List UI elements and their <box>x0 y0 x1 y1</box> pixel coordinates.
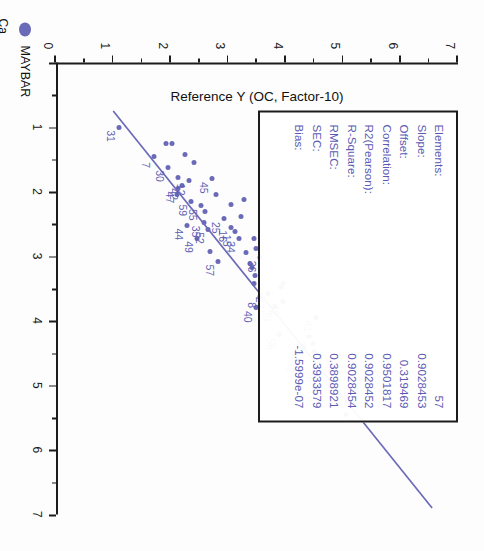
y-tick <box>112 55 114 62</box>
x-tick <box>52 159 56 161</box>
y-tick-label: 5 <box>328 42 342 49</box>
statistic-key: Correlation: <box>377 124 394 185</box>
legend-marker-icon <box>19 22 31 36</box>
data-point <box>213 192 218 197</box>
statistic-value: -1.5999e-07 <box>290 345 307 408</box>
statistic-key: R2(Pearson): <box>360 124 377 194</box>
data-point <box>202 220 207 225</box>
y-tick-label: 7 <box>443 42 457 49</box>
data-point <box>194 235 199 240</box>
statistic-row: Offset:0.319469 <box>395 124 412 408</box>
data-point-label: 8 <box>246 302 258 308</box>
statistic-row: Slope:0.9028453 <box>412 124 429 408</box>
data-point <box>183 151 188 156</box>
data-point <box>248 261 253 266</box>
data-point-label: 16 <box>217 230 229 242</box>
data-point <box>250 265 255 270</box>
data-point-label: 40 <box>242 311 254 323</box>
statistic-key: Slope: <box>412 124 429 157</box>
data-point <box>184 222 189 227</box>
x-tick <box>49 385 56 387</box>
statistic-value: 0.9028453 <box>412 353 429 408</box>
data-point <box>151 153 156 158</box>
statistic-key: R-Square: <box>342 124 359 177</box>
data-point <box>198 203 203 208</box>
data-point <box>221 216 226 221</box>
data-point-label: 55 <box>187 209 199 221</box>
y-tick <box>399 55 401 62</box>
statistic-row: R-Square:0.9028454 <box>342 124 359 408</box>
y-axis-title: Reference Y (OC, Factor-10) <box>171 89 344 104</box>
data-point-label: 45 <box>198 181 210 193</box>
y-tick-label: 1 <box>98 42 112 49</box>
legend: MAYBAR <box>18 22 32 97</box>
data-point-label: 36 <box>246 260 258 272</box>
statistic-key: SEC: <box>307 124 324 151</box>
data-point-label: 31 <box>105 130 117 142</box>
x-tick <box>49 514 56 516</box>
data-point-label: 49 <box>183 241 195 253</box>
data-point-label: 7 <box>140 162 152 168</box>
y-tick <box>313 58 315 62</box>
statistics-box: Elements:57Slope:0.9028453Offset:0.31946… <box>258 110 458 422</box>
x-tick <box>52 223 56 225</box>
data-point <box>242 196 247 201</box>
data-point <box>210 176 215 181</box>
x-tick <box>52 94 56 96</box>
x-tick-label: 4 <box>30 317 44 324</box>
data-point <box>188 198 193 203</box>
statistic-key: Elements: <box>430 124 447 176</box>
x-tick <box>49 191 56 193</box>
data-point-label: 12 <box>175 183 187 195</box>
y-tick <box>141 58 143 62</box>
x-tick <box>49 256 56 258</box>
y-tick <box>370 58 372 62</box>
data-point <box>175 185 180 190</box>
data-point <box>252 235 257 240</box>
data-point <box>251 280 256 285</box>
y-tick <box>255 58 257 62</box>
data-point <box>174 192 179 197</box>
data-point <box>207 248 212 253</box>
y-tick <box>342 55 344 62</box>
data-point <box>203 208 208 213</box>
data-point-label: 59 <box>177 204 189 216</box>
y-tick <box>83 58 85 62</box>
statistic-row: Bias:-1.5999e-07 <box>290 124 307 408</box>
statistic-row: Correlation:0.9501817 <box>377 124 394 408</box>
x-tick <box>52 482 56 484</box>
data-point-label: 47 <box>164 191 176 203</box>
statistic-key: RMSEC: <box>325 124 342 169</box>
x-tick-label: 7 <box>30 511 44 518</box>
data-point <box>243 250 248 255</box>
y-tick <box>456 55 458 62</box>
x-tick <box>49 127 56 129</box>
data-point <box>229 202 234 207</box>
data-point <box>170 140 175 145</box>
data-point <box>180 182 185 187</box>
y-tick <box>54 55 56 62</box>
y-tick-label: 0 <box>41 42 55 49</box>
data-point-label: 42 <box>168 188 180 200</box>
data-point <box>236 235 241 240</box>
data-point <box>238 213 243 218</box>
data-point-label: 34 <box>225 241 237 253</box>
statistic-value: 0.9501817 <box>377 353 394 408</box>
data-point <box>164 140 169 145</box>
data-point <box>252 273 257 278</box>
statistic-row: RMSEC:0.3898921 <box>325 124 342 408</box>
data-point <box>175 174 180 179</box>
y-tick-label: 2 <box>156 42 170 49</box>
statistic-value: 0.9028452 <box>360 353 377 408</box>
x-tick <box>49 449 56 451</box>
x-tick <box>52 417 56 419</box>
data-point <box>215 258 220 263</box>
data-point <box>229 224 234 229</box>
x-tick-label: 2 <box>30 188 44 195</box>
data-point-label: 35 <box>190 225 202 237</box>
statistic-value: 0.9028454 <box>342 353 359 408</box>
legend-label: MAYBAR <box>18 45 32 97</box>
statistic-value: 0.3898921 <box>325 353 342 408</box>
data-point <box>206 226 211 231</box>
x-axis-line <box>56 62 58 514</box>
